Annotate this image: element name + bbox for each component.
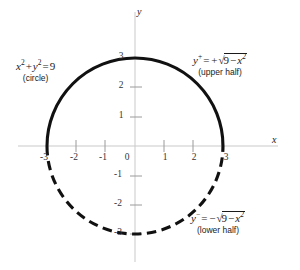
annotation-circle-equation: x2+y2=9 (circle): [16, 56, 55, 83]
lower-equation-text: y−=−√9−x2: [191, 212, 245, 224]
x-tick-label--1: -1: [95, 152, 111, 162]
lower-caption: (lower half): [191, 226, 245, 235]
y-axis-label: y: [137, 6, 141, 17]
x-tick-label-3: 3: [218, 152, 234, 162]
circle-caption: (circle): [16, 74, 55, 83]
y-tick-label--1: -1: [110, 169, 126, 179]
lower-sign: −: [208, 212, 216, 224]
x-tick-label--2: -2: [66, 152, 82, 162]
figure-container: -3 -2 -1 1 2 3 0 3 2 1 -1 -2 -3 x y x2+y…: [0, 0, 300, 270]
lower-radicand: 9−x2: [222, 211, 245, 224]
upper-caption: (upper half): [193, 68, 247, 77]
y-tick-label--3: -3: [110, 227, 126, 237]
y-tick-label-1: 1: [113, 110, 129, 120]
circle-equation-text: x2+y2=9: [16, 60, 55, 72]
x-tick-label--3: -3: [36, 152, 52, 162]
lower-radicand-exp: 2: [240, 210, 244, 219]
upper-sign: +: [210, 54, 218, 66]
x-tick-label-1: 1: [157, 152, 173, 162]
x-axis-label: x: [272, 134, 276, 145]
y-tick-label--2: -2: [110, 198, 126, 208]
circle-equals: =: [42, 60, 50, 72]
upper-equation-text: y+=+√9−x2: [193, 54, 247, 66]
annotation-lower-half: y−=−√9−x2 (lower half): [191, 208, 245, 235]
circle-exp-2: 2: [38, 58, 42, 67]
circle-plus: +: [25, 60, 33, 72]
x-tick-label-2: 2: [186, 152, 202, 162]
origin-label: 0: [119, 152, 135, 162]
upper-radicand: 9−x2: [224, 53, 247, 66]
y-tick-label-3: 3: [113, 51, 129, 61]
plot-canvas: [0, 0, 300, 270]
circle-rhs: 9: [50, 60, 56, 72]
annotation-upper-half: y+=+√9−x2 (upper half): [193, 50, 247, 77]
y-tick-label-2: 2: [113, 80, 129, 90]
upper-radicand-exp: 2: [242, 52, 246, 61]
